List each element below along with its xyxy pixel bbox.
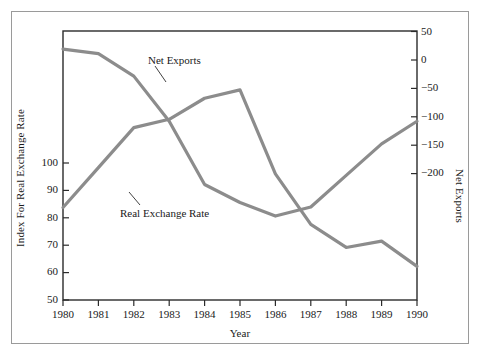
- left-axis-ticks: [63, 163, 69, 300]
- y-left-tick-60: 60: [32, 265, 58, 277]
- net-exports-leader-line: [155, 66, 166, 82]
- y-right-tick-50: 50: [421, 25, 455, 37]
- y-left-tick-50: 50: [32, 293, 58, 305]
- x-axis-ticks: [63, 300, 417, 306]
- x-tick-1988: 1988: [326, 308, 366, 320]
- x-tick-1981: 1981: [78, 308, 118, 320]
- x-tick-1987: 1987: [291, 308, 331, 320]
- x-tick-1986: 1986: [255, 308, 295, 320]
- right-axis-ticks: [411, 32, 417, 174]
- series-line-net-exports: [63, 49, 417, 216]
- y-right-tick-0: 0: [421, 53, 455, 65]
- y-left-tick-80: 80: [32, 211, 58, 223]
- y-left-tick-100: 100: [32, 156, 58, 168]
- y-right-tick-minus-100: −100: [421, 110, 455, 122]
- x-tick-1990: 1990: [397, 308, 437, 320]
- y-right-tick-minus-50: −50: [421, 81, 455, 93]
- annotation-net-exports: Net Exports: [148, 54, 201, 66]
- plot-area-border: [63, 31, 417, 300]
- y-axis-left-title: Index For Real Exchange Rate: [14, 98, 26, 258]
- x-tick-1983: 1983: [149, 308, 189, 320]
- y-right-tick-minus-200: −200: [421, 166, 455, 178]
- series-line-real-exchange-rate: [63, 90, 417, 267]
- y-left-tick-90: 90: [32, 183, 58, 195]
- real-exchange-rate-leader-line: [129, 192, 140, 205]
- chart-figure: 100 90 80 70 60 50 50 0 −50 −100 −150 −2…: [0, 0, 484, 357]
- y-axis-right-title: Net Exports: [454, 126, 466, 266]
- x-tick-1980: 1980: [43, 308, 83, 320]
- y-left-tick-70: 70: [32, 238, 58, 250]
- y-right-tick-minus-150: −150: [421, 138, 455, 150]
- x-tick-1982: 1982: [114, 308, 154, 320]
- x-tick-1984: 1984: [185, 308, 225, 320]
- x-tick-1989: 1989: [362, 308, 402, 320]
- x-tick-1985: 1985: [220, 308, 260, 320]
- x-axis-title: Year: [185, 327, 295, 339]
- plot-canvas: [0, 0, 484, 357]
- annotation-real-exchange-rate: Real Exchange Rate: [120, 207, 209, 219]
